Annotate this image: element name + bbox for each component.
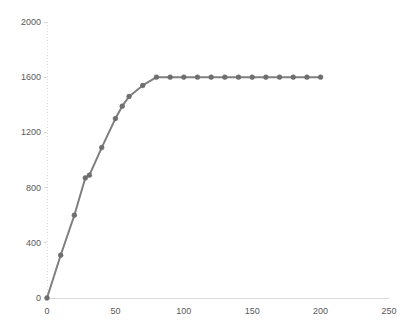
data-point-marker: [305, 75, 310, 80]
y-axis-tick-label: 1200: [0, 127, 41, 137]
data-point-marker: [277, 75, 282, 80]
data-point-marker: [45, 296, 50, 301]
series-line-0: [47, 77, 321, 298]
data-point-marker: [181, 75, 186, 80]
data-point-marker: [140, 83, 145, 88]
data-point-marker: [127, 94, 132, 99]
data-point-marker: [120, 104, 125, 109]
y-axis-tick-label: 2000: [0, 17, 41, 27]
data-point-marker: [263, 75, 268, 80]
data-point-marker: [209, 75, 214, 80]
y-axis-tick-label: 800: [0, 183, 41, 193]
data-point-marker: [58, 253, 63, 258]
x-axis-tick-label: 0: [27, 306, 67, 316]
data-point-marker: [250, 75, 255, 80]
chart-plot-area: [0, 0, 409, 332]
x-axis-tick-label: 100: [164, 306, 204, 316]
data-point-marker: [113, 116, 118, 121]
data-point-marker: [318, 75, 323, 80]
data-point-marker: [236, 75, 241, 80]
data-point-marker: [291, 75, 296, 80]
x-axis-tick-label: 200: [301, 306, 341, 316]
data-point-marker: [222, 75, 227, 80]
data-point-marker: [195, 75, 200, 80]
data-point-marker: [87, 173, 92, 178]
data-point-marker: [99, 145, 104, 150]
y-axis-tick-label: 0: [0, 293, 41, 303]
data-point-marker: [168, 75, 173, 80]
data-point-marker: [154, 75, 159, 80]
x-axis-tick-label: 250: [369, 306, 409, 316]
chart-container: 0400800120016002000 050100150200250: [0, 0, 409, 332]
x-axis-tick-label: 150: [232, 306, 272, 316]
x-axis-tick-label: 50: [95, 306, 135, 316]
data-point-marker: [72, 213, 77, 218]
y-axis-tick-label: 400: [0, 238, 41, 248]
y-axis-tick-label: 1600: [0, 72, 41, 82]
